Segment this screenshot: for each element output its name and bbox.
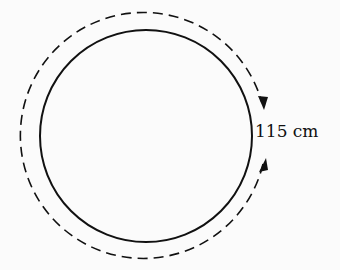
diagram-canvas: 115 cm bbox=[0, 0, 340, 270]
dashed-arrow-arc bbox=[20, 12, 263, 258]
arrowhead-bottom-icon bbox=[259, 158, 268, 172]
arrowhead-top-icon bbox=[258, 96, 268, 110]
solid-circle bbox=[40, 30, 252, 242]
circumference-label: 115 cm bbox=[255, 121, 319, 141]
